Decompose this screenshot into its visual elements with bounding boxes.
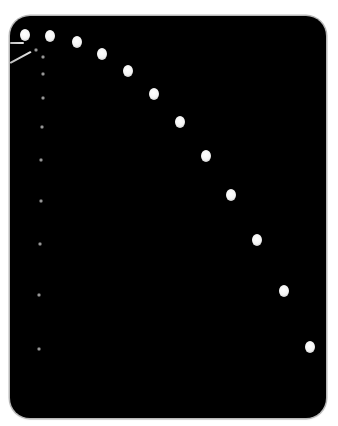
light-streak (10, 51, 32, 64)
bright-light-dot (45, 30, 55, 42)
bright-light-dot (279, 285, 289, 297)
dim-light-dot (37, 347, 41, 351)
bright-light-dot (201, 150, 211, 162)
bright-light-dot (252, 234, 262, 246)
bright-light-dot (226, 189, 236, 201)
dim-light-dot (41, 55, 45, 59)
dark-panel (10, 16, 326, 418)
bright-light-dot (149, 88, 159, 100)
dim-light-dot (34, 48, 38, 52)
dim-light-dot (39, 158, 43, 162)
dim-light-dot (37, 293, 41, 297)
dim-light-dot (41, 72, 45, 76)
bright-light-dot (305, 341, 315, 353)
dim-light-dot (40, 125, 44, 129)
dim-light-dot (41, 96, 45, 100)
bright-light-dot (97, 48, 107, 60)
light-streak (10, 42, 24, 44)
dim-light-dot (38, 242, 42, 246)
bright-light-dot (123, 65, 133, 77)
bright-light-dot (20, 29, 30, 41)
bright-light-dot (175, 116, 185, 128)
bright-light-dot (72, 36, 82, 48)
dim-light-dot (39, 199, 43, 203)
